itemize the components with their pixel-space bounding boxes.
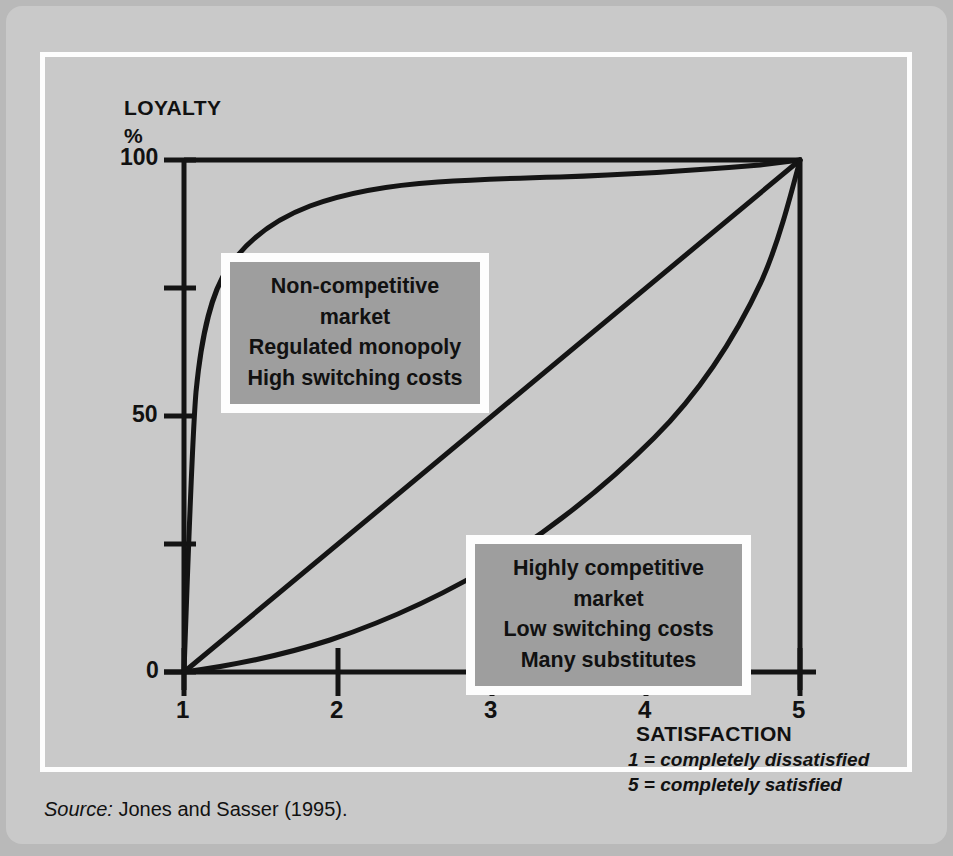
callout-non-competitive: Non-competitive market Regulated monopol…	[221, 253, 489, 413]
source-reference: Jones and Sasser (1995).	[113, 798, 348, 820]
x-tick-label-1: 1	[176, 696, 189, 724]
callout-non-competitive-line-1: Non-competitive market	[244, 271, 466, 332]
callout-non-competitive-line-3: High switching costs	[244, 363, 466, 394]
legend-note-2: 5 = completely satisfied	[628, 774, 842, 796]
y-tick-label-0: 0	[146, 657, 159, 684]
callout-highly-competitive-line-2: Low switching costs	[489, 614, 728, 645]
callout-highly-competitive-line-3: Many substitutes	[489, 645, 728, 676]
x-tick-label-5: 5	[792, 696, 805, 724]
y-axis-ticks	[164, 160, 196, 672]
source-caption: Source: Jones and Sasser (1995).	[44, 798, 348, 821]
y-tick-label-50: 50	[132, 401, 158, 428]
x-tick-label-3: 3	[484, 696, 497, 724]
y-axis-title: LOYALTY	[124, 96, 221, 120]
source-label: Source:	[44, 798, 113, 820]
x-tick-label-2: 2	[330, 696, 343, 724]
x-axis-title: SATISFACTION	[636, 722, 792, 746]
callout-highly-competitive: Highly competitive market Low switching …	[466, 535, 751, 695]
y-tick-label-100: 100	[120, 144, 158, 171]
x-tick-label-4: 4	[638, 696, 651, 724]
callout-highly-competitive-line-1: Highly competitive market	[489, 553, 728, 614]
figure-root: LOYALTY % 100 50 0 1 2 3 4 5 SATISFACTIO…	[0, 0, 953, 856]
legend-note-1: 1 = completely dissatisfied	[628, 749, 869, 771]
callout-non-competitive-line-2: Regulated monopoly	[244, 332, 466, 363]
